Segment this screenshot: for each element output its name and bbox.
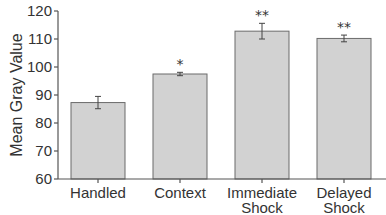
x-axis: HandledContextImmediateShockDelayedShock	[58, 179, 386, 215]
x-tick-label: Shock	[323, 199, 365, 215]
y-axis: 60708090100110120	[27, 2, 58, 187]
y-tick-label: 100	[27, 58, 52, 75]
y-tick-label: 110	[28, 30, 52, 47]
significance-marker: **	[255, 7, 269, 23]
y-tick-label: 80	[35, 114, 52, 131]
significance-marker: **	[337, 19, 351, 35]
x-tick-label: Shock	[241, 199, 283, 215]
bars: *****	[71, 7, 371, 179]
y-tick-label: 70	[35, 142, 52, 159]
y-tick-label: 60	[35, 170, 52, 187]
bar-handled	[71, 103, 125, 179]
y-tick-label: 120	[27, 2, 52, 19]
bar-context	[153, 74, 207, 179]
bar-immediate-shock	[235, 31, 289, 179]
y-tick-label: 90	[35, 86, 52, 103]
significance-marker: *	[177, 56, 184, 72]
y-axis-label: Mean Gray Value	[8, 33, 25, 156]
bar-chart: 60708090100110120 ***** HandledContextIm…	[0, 0, 386, 215]
bar-delayed-shock	[317, 38, 371, 179]
x-tick-label: Context	[154, 184, 207, 201]
x-tick-label: Handled	[70, 184, 126, 201]
